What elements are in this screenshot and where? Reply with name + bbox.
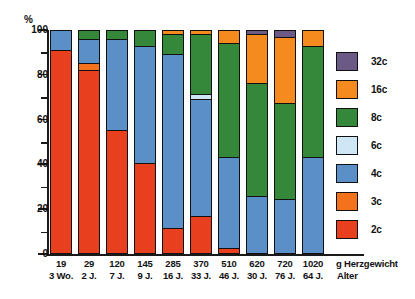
bar-segment-8c <box>79 31 99 40</box>
legend-item-6c[interactable]: 6c <box>336 132 412 159</box>
bar-segment-8c <box>191 35 211 95</box>
bar-segment-2c <box>191 217 211 253</box>
x-axis-caption-line1: g Herzgewicht <box>336 258 398 269</box>
legend-label-32c: 32c <box>371 56 387 67</box>
bar-segment-4c <box>247 197 267 253</box>
y-minor-tick-10 <box>41 232 48 234</box>
bar-segment-4c <box>275 200 295 253</box>
bar-segment-4c <box>79 40 99 64</box>
legend-label-2c: 2c <box>371 224 382 235</box>
bar-segment-4c <box>191 100 211 218</box>
bar-segment-16c <box>247 35 267 84</box>
bar-segment-8c <box>275 104 295 199</box>
legend-swatch-3c <box>336 192 358 211</box>
bar-segment-8c <box>219 44 239 157</box>
x-axis-caption-line2: Alter <box>336 270 398 282</box>
legend-swatch-4c <box>336 164 358 183</box>
legend-swatch-8c <box>336 108 358 127</box>
bar-segment-2c <box>51 51 71 253</box>
legend-label-4c: 4c <box>371 168 382 179</box>
bar-segment-2c <box>79 71 99 253</box>
bar-segment-3c <box>79 64 99 71</box>
y-minor-tick-90 <box>41 52 48 54</box>
legend-swatch-32c <box>336 52 358 71</box>
bar-segment-32c <box>275 31 295 38</box>
bar-145[interactable] <box>134 30 156 254</box>
y-minor-tick-70 <box>41 97 48 99</box>
bar-segment-8c <box>163 35 183 55</box>
legend-item-32c[interactable]: 32c <box>336 48 412 75</box>
bar-segment-4c <box>51 31 71 51</box>
bar-segment-2c <box>135 164 155 253</box>
bar-segment-2c <box>163 229 183 253</box>
legend: 32c16c8c6c4c3c2c <box>336 48 412 244</box>
bar-segment-2c <box>219 249 239 253</box>
bar-segment-2c <box>107 131 127 253</box>
legend-item-4c[interactable]: 4c <box>336 160 412 187</box>
bar-segment-4c <box>107 40 127 131</box>
bar-285[interactable] <box>162 30 184 254</box>
bar-19[interactable] <box>50 30 72 254</box>
bar-120[interactable] <box>106 30 128 254</box>
legend-label-6c: 6c <box>371 140 382 151</box>
y-tick-label: 100 <box>16 25 48 35</box>
y-tick-label: 60 <box>16 115 48 125</box>
bar-segment-8c <box>135 31 155 47</box>
legend-swatch-16c <box>336 80 358 99</box>
bar-segment-4c <box>219 158 239 249</box>
y-tick-label: 20 <box>16 204 48 214</box>
bar-segment-16c <box>275 38 295 105</box>
legend-item-8c[interactable]: 8c <box>336 104 412 131</box>
bar-510[interactable] <box>218 30 240 254</box>
bar-29[interactable] <box>78 30 100 254</box>
y-tick-label: 40 <box>16 159 48 169</box>
legend-swatch-6c <box>336 136 358 155</box>
legend-label-16c: 16c <box>371 84 387 95</box>
y-tick-label: 80 <box>16 70 48 80</box>
legend-item-3c[interactable]: 3c <box>336 188 412 215</box>
y-minor-tick-50 <box>41 142 48 144</box>
bar-720[interactable] <box>274 30 296 254</box>
bar-segment-16c <box>219 31 239 44</box>
x-label-age: 64 J. <box>290 270 336 282</box>
bar-segment-4c <box>163 55 183 228</box>
legend-item-16c[interactable]: 16c <box>336 76 412 103</box>
bar-1020[interactable] <box>302 30 324 254</box>
bar-segment-8c <box>247 84 267 197</box>
plot-area <box>49 30 364 254</box>
bar-segment-8c <box>107 31 127 40</box>
x-axis-caption: g Herzgewicht Alter <box>336 258 398 282</box>
legend-label-8c: 8c <box>371 112 382 123</box>
bar-370[interactable] <box>190 30 212 254</box>
x-label-weight: 1020 <box>290 258 336 270</box>
x-axis-line <box>47 254 364 256</box>
chart-root: % 020406080100 193 Wo.292 J.1207 J.1459 … <box>0 0 415 299</box>
bar-segment-4c <box>303 158 323 253</box>
legend-swatch-2c <box>336 220 358 239</box>
legend-item-2c[interactable]: 2c <box>336 216 412 243</box>
y-minor-tick-30 <box>41 187 48 189</box>
bar-segment-16c <box>303 31 323 47</box>
bar-620[interactable] <box>246 30 268 254</box>
bar-segment-8c <box>303 47 323 158</box>
x-label-1020: 102064 J. <box>290 258 336 282</box>
legend-label-3c: 3c <box>371 196 382 207</box>
bar-segment-4c <box>135 47 155 165</box>
